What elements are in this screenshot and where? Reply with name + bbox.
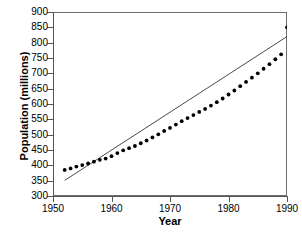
x-axis-title: Year xyxy=(53,215,287,227)
data-point xyxy=(80,163,84,167)
data-point xyxy=(209,104,213,108)
data-point xyxy=(92,160,96,164)
y-axis-line xyxy=(53,12,54,197)
data-point xyxy=(180,119,184,123)
data-point xyxy=(238,84,242,88)
data-point xyxy=(285,25,287,29)
data-point xyxy=(69,167,73,171)
data-point xyxy=(227,93,231,97)
data-point xyxy=(115,151,119,155)
data-point xyxy=(162,129,166,133)
population-scatter-chart: 300350400450500550600650700750800850900 … xyxy=(0,0,302,236)
data-point xyxy=(192,113,196,117)
data-point xyxy=(250,76,254,80)
x-tick-label-1980: 1980 xyxy=(209,203,249,214)
x-tick-1960 xyxy=(112,196,113,202)
data-point xyxy=(145,139,149,143)
data-point xyxy=(256,71,260,75)
x-tick-1990 xyxy=(287,196,288,202)
data-point xyxy=(168,126,172,130)
data-point xyxy=(186,116,190,120)
data-point xyxy=(151,136,155,140)
data-point xyxy=(232,89,236,93)
data-point xyxy=(133,144,137,148)
x-tick-label-1970: 1970 xyxy=(150,203,190,214)
data-point xyxy=(273,57,277,61)
x-tick-label-1960: 1960 xyxy=(92,203,132,214)
x-tick-1970 xyxy=(170,196,171,202)
data-point xyxy=(244,80,248,84)
x-tick-label-1950: 1950 xyxy=(33,203,73,214)
data-point xyxy=(262,67,266,71)
data-point xyxy=(98,158,102,162)
data-point xyxy=(139,141,143,145)
data-point-series xyxy=(63,25,287,171)
data-point xyxy=(268,62,272,66)
data-point xyxy=(197,110,201,114)
data-point xyxy=(110,154,114,158)
data-point xyxy=(121,148,125,152)
plot-canvas xyxy=(53,12,287,196)
y-tick-label-300: 300 xyxy=(20,191,48,201)
data-point xyxy=(104,157,108,161)
data-point xyxy=(75,165,79,169)
y-tick-label-900: 900 xyxy=(20,7,48,17)
data-point xyxy=(215,100,219,104)
data-point xyxy=(174,123,178,127)
data-point xyxy=(63,168,67,172)
x-tick-1950 xyxy=(53,196,54,202)
data-point xyxy=(127,146,131,150)
trend-line xyxy=(65,37,287,181)
data-point xyxy=(221,97,225,101)
x-tick-1980 xyxy=(229,196,230,202)
data-point xyxy=(279,52,283,56)
y-axis-title: Population (millions) xyxy=(18,26,30,186)
trend-line-segment xyxy=(65,37,287,181)
x-tick-label-1990: 1990 xyxy=(267,203,302,214)
data-point xyxy=(156,132,160,136)
data-point xyxy=(86,162,90,166)
data-point xyxy=(203,107,207,111)
